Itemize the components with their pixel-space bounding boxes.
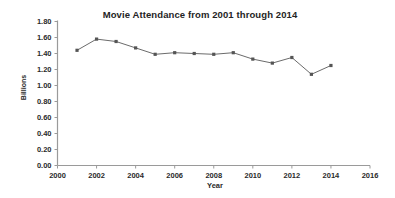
axis-ticks [55, 22, 371, 169]
chart-container: Movie Attendance from 2001 through 2014 … [0, 0, 395, 198]
plot-area [0, 0, 395, 198]
data-point-markers [75, 38, 332, 76]
axis-lines [58, 21, 371, 166]
